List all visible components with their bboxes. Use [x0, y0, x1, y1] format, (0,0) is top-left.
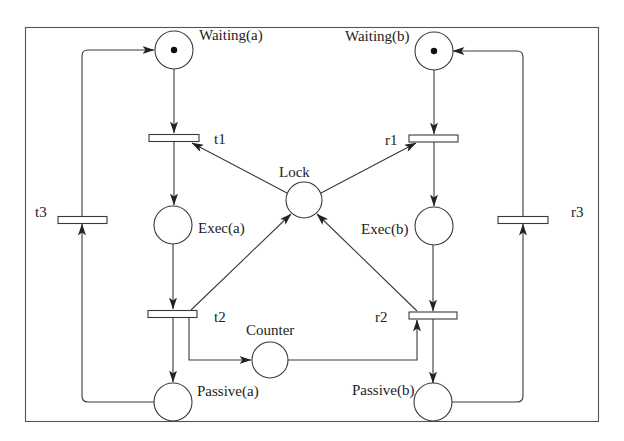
place-waiting-a[interactable] [155, 31, 193, 69]
petri-net-diagram: Waiting(a) Waiting(b) Exec(a) Exec(b) Pa… [0, 0, 624, 441]
label-waiting-a: Waiting(a) [199, 27, 263, 44]
label-t1: t1 [214, 131, 226, 147]
transition-t3[interactable] [58, 217, 107, 224]
label-waiting-b: Waiting(b) [345, 28, 410, 45]
arc-counter-to-r2 [288, 320, 417, 360]
place-counter[interactable] [252, 342, 288, 378]
label-r1: r1 [385, 132, 398, 148]
arc-t3-to-waiting-a [82, 50, 154, 216]
label-exec-b: Exec(b) [361, 221, 408, 238]
place-exec-b[interactable] [415, 207, 453, 245]
place-exec-a[interactable] [154, 206, 192, 244]
label-r3: r3 [571, 204, 584, 220]
transition-t2[interactable] [148, 311, 197, 318]
token-icon [171, 47, 177, 53]
place-waiting-b[interactable] [415, 32, 453, 70]
transition-t1[interactable] [149, 135, 199, 142]
arc-passive-b-to-r3 [452, 224, 523, 402]
label-lock: Lock [279, 164, 310, 180]
token-icon [431, 48, 437, 54]
arc-lock-to-r1 [321, 143, 416, 193]
transition-r1[interactable] [409, 135, 458, 142]
label-exec-a: Exec(a) [198, 220, 245, 237]
label-t3: t3 [35, 204, 47, 220]
label-t2: t2 [214, 309, 226, 325]
arc-r3-to-waiting-b [453, 51, 523, 216]
arc-lock-to-t1 [192, 143, 287, 193]
place-passive-b[interactable] [414, 383, 452, 421]
transition-r2[interactable] [409, 312, 457, 319]
label-passive-b: Passive(b) [352, 382, 415, 399]
label-passive-a: Passive(a) [197, 383, 259, 400]
label-r2: r2 [375, 309, 388, 325]
place-passive-a[interactable] [154, 383, 192, 421]
arc-passive-a-to-t3 [82, 224, 154, 402]
label-counter: Counter [246, 322, 294, 338]
place-lock[interactable] [286, 182, 322, 218]
transition-r3[interactable] [498, 217, 548, 224]
diagram-frame [26, 28, 599, 422]
